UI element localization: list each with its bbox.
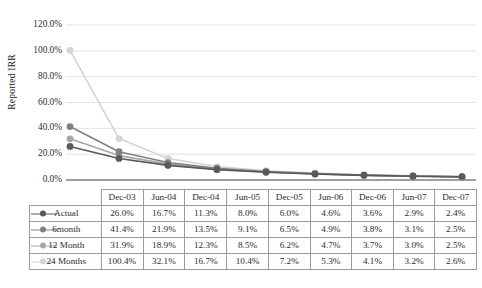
table-cell: 18.9%	[143, 238, 185, 254]
table-cell: 5.3%	[310, 254, 352, 270]
y-axis-tick-labels: 120.0%100.0%80.0%60.0%40.0%20.0%0.0%	[14, 0, 62, 190]
table-column-header: Dec-04	[185, 190, 227, 206]
table-cell: 3.8%	[352, 222, 394, 238]
y-tick-label: 0.0%	[16, 174, 62, 184]
series-marker	[165, 162, 172, 169]
series-marker	[116, 148, 123, 155]
chart-area: Reported IRR 120.0%100.0%80.0%60.0%40.0%…	[0, 0, 482, 190]
table-row: Actual26.0%16.7%11.3%8.0%6.0%4.6%3.6%2.9…	[30, 206, 477, 222]
table-cell: 32.1%	[143, 254, 185, 270]
y-tick-label: 40.0%	[16, 122, 62, 132]
table-cell: 2.5%	[435, 238, 477, 254]
table-cell: 2.6%	[435, 254, 477, 270]
table-column-header: Dec-06	[352, 190, 394, 206]
table-cell: 13.5%	[185, 222, 227, 238]
table-cell: 2.9%	[393, 206, 435, 222]
table-cell: 8.5%	[227, 238, 269, 254]
series-marker	[67, 143, 74, 150]
table-header-row: Dec-03Jun-04Dec-04Jun-05Dec-05Jun-06Dec-…	[30, 190, 477, 206]
legend-label: 6month	[50, 224, 80, 234]
table-cell: 4.1%	[352, 254, 394, 270]
series-marker	[361, 172, 368, 179]
line-chart-svg	[66, 0, 476, 190]
legend-label: 12 Month	[46, 240, 84, 250]
legend-label: 24 Months	[44, 256, 86, 266]
figure-caption	[8, 277, 478, 288]
table-column-header: Dec-07	[435, 190, 477, 206]
series-marker	[67, 135, 74, 142]
table-cell: 3.1%	[393, 222, 435, 238]
table-row-legend: 12 Month	[30, 238, 102, 254]
table-cell: 100.4%	[101, 254, 143, 270]
table-cell: 31.9%	[101, 238, 143, 254]
series-marker	[312, 171, 319, 178]
y-tick-label: 20.0%	[16, 148, 62, 158]
table-row: 24 Months100.4%32.1%16.7%10.4%7.2%5.3%4.…	[30, 254, 477, 270]
table-header: Dec-03Jun-04Dec-04Jun-05Dec-05Jun-06Dec-…	[30, 190, 477, 206]
series-marker	[214, 166, 221, 173]
table-cell: 12.3%	[185, 238, 227, 254]
series-marker	[67, 123, 74, 130]
series-data-table: Dec-03Jun-04Dec-04Jun-05Dec-05Jun-06Dec-…	[29, 189, 477, 270]
figure-irr-decay: Reported IRR 120.0%100.0%80.0%60.0%40.0%…	[0, 0, 482, 288]
table-cell: 3.2%	[393, 254, 435, 270]
table-row-legend: Actual	[30, 206, 102, 222]
plot-region	[66, 0, 476, 190]
y-tick-label: 60.0%	[16, 97, 62, 107]
table-row-legend: 6month	[30, 222, 102, 238]
table-cell: 2.5%	[435, 222, 477, 238]
table-cell: 10.4%	[227, 254, 269, 270]
table-cell: 11.3%	[185, 206, 227, 222]
table-column-header: Jun-04	[143, 190, 185, 206]
table-cell: 9.1%	[227, 222, 269, 238]
table-cell: 26.0%	[101, 206, 143, 222]
table-cell: 3.6%	[352, 206, 394, 222]
table-cell: 16.7%	[143, 206, 185, 222]
table-row: 12 Month31.9%18.9%12.3%8.5%6.2%4.7%3.7%3…	[30, 238, 477, 254]
table-cell: 7.2%	[268, 254, 310, 270]
series-marker	[263, 169, 270, 176]
table-row-legend: 24 Months	[30, 254, 102, 270]
table-column-header: Jun-07	[393, 190, 435, 206]
table-body: Actual26.0%16.7%11.3%8.0%6.0%4.6%3.6%2.9…	[30, 206, 477, 270]
table-column-header: Jun-06	[310, 190, 352, 206]
series-marker	[410, 173, 417, 180]
y-tick-label: 80.0%	[16, 71, 62, 81]
table-cell: 2.4%	[435, 206, 477, 222]
table-cell: 4.9%	[310, 222, 352, 238]
table-cell: 41.4%	[101, 222, 143, 238]
table-cell: 4.6%	[310, 206, 352, 222]
series-marker	[67, 47, 74, 54]
table-cell: 6.5%	[268, 222, 310, 238]
y-tick-label: 100.0%	[16, 45, 62, 55]
legend-label: Actual	[52, 208, 79, 218]
table-column-header: Jun-05	[227, 190, 269, 206]
table-corner-cell	[30, 190, 102, 206]
y-tick-label: 120.0%	[16, 19, 62, 29]
table-cell: 3.0%	[393, 238, 435, 254]
table-column-header: Dec-05	[268, 190, 310, 206]
series-marker	[116, 135, 123, 142]
table-cell: 6.0%	[268, 206, 310, 222]
series-marker	[116, 155, 123, 162]
table-cell: 3.7%	[352, 238, 394, 254]
series-marker	[459, 174, 466, 181]
table-row: 6month41.4%21.9%13.5%9.1%6.5%4.9%3.8%3.1…	[30, 222, 477, 238]
table-cell: 4.7%	[310, 238, 352, 254]
table-column-header: Dec-03	[101, 190, 143, 206]
table-cell: 8.0%	[227, 206, 269, 222]
table-cell: 16.7%	[185, 254, 227, 270]
table-cell: 21.9%	[143, 222, 185, 238]
table-cell: 6.2%	[268, 238, 310, 254]
